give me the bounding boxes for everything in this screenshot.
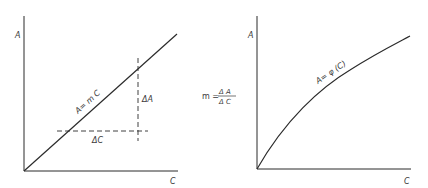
linear-line — [24, 34, 177, 171]
left-x-axis-label: C — [170, 177, 176, 186]
right-plot: A C A= φ (C) — [247, 16, 411, 186]
delta-c-label: ΔC — [91, 136, 103, 145]
diagram-canvas: A C A= m C ΔA ΔC m = Δ A Δ C A C A= φ (C… — [0, 0, 428, 188]
curve-label: A= φ (C) — [313, 59, 347, 86]
formula-denominator: Δ C — [218, 98, 231, 106]
linear-line-label: A= m C — [73, 88, 103, 116]
nonlinear-curve — [257, 36, 410, 169]
left-y-axis-label: A — [14, 31, 20, 40]
left-plot: A C A= m C ΔA ΔC — [14, 16, 178, 186]
delta-a-label: ΔA — [141, 95, 153, 104]
right-x-axis-label: C — [404, 177, 410, 186]
formula-lhs: m = — [202, 92, 219, 101]
right-y-axis-label: A — [247, 31, 253, 40]
formula-numerator: Δ A — [218, 88, 231, 96]
slope-formula: m = Δ A Δ C — [202, 88, 236, 106]
